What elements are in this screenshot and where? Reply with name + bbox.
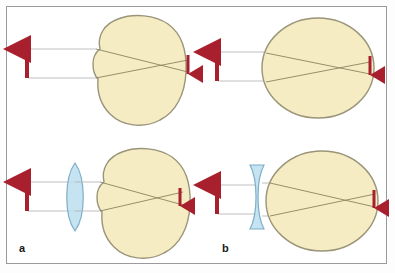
optics-figure: a b bbox=[0, 0, 395, 273]
eyeball-b-bottom bbox=[266, 151, 378, 251]
diagram-canvas bbox=[0, 0, 395, 273]
panel-b-top bbox=[217, 18, 374, 118]
panel-label-a: a bbox=[19, 243, 25, 254]
panel-b-bottom bbox=[217, 151, 378, 251]
incident-rays-a-top bbox=[28, 49, 96, 78]
eyeball-a-top bbox=[93, 16, 186, 126]
incident-rays-b-bottom bbox=[218, 185, 255, 214]
concave-lens-b-bottom[interactable] bbox=[250, 165, 264, 229]
panel-a-bottom bbox=[27, 149, 190, 259]
eyeball-b-top bbox=[262, 18, 374, 118]
panel-a-top bbox=[27, 16, 188, 126]
panel-label-b: b bbox=[222, 243, 229, 254]
convex-lens-a-bottom[interactable] bbox=[67, 163, 84, 231]
